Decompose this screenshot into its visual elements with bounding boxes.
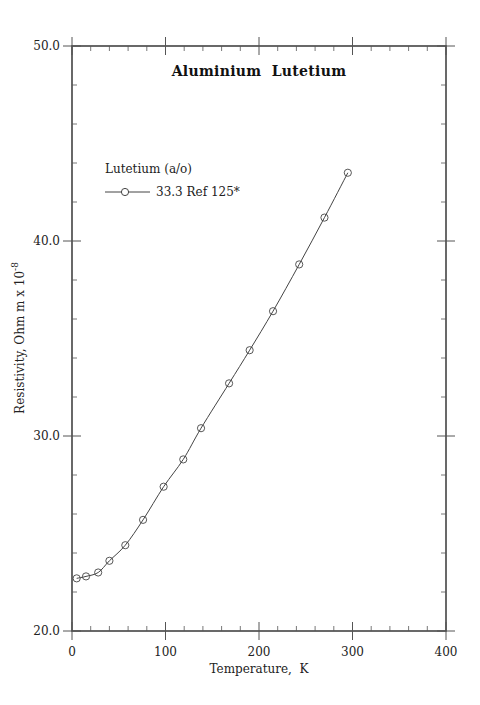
x-tick-label: 200: [248, 645, 271, 659]
y-tick-label: 20.0: [33, 624, 60, 638]
x-tick-label: 400: [435, 645, 458, 659]
chart-title: Aluminium Lutetium: [171, 63, 347, 79]
x-axis-label: Temperature, K: [209, 662, 309, 676]
legend-entry-label: 33.3 Ref 125*: [156, 185, 240, 199]
y-tick-labels: 20.030.040.050.0: [33, 39, 60, 638]
x-tick-labels: 0100200300400: [68, 645, 457, 659]
legend: Lutetium (a/o) 33.3 Ref 125*: [105, 162, 240, 199]
y-axis-label-text: Resistivity, Ohm m x 10: [13, 271, 27, 414]
y-axis-label: Resistivity, Ohm m x 10-8: [10, 262, 27, 414]
y-tick-label: 40.0: [33, 234, 60, 248]
x-tick-label: 100: [154, 645, 177, 659]
legend-title: Lutetium (a/o): [105, 162, 192, 176]
series-line: [77, 173, 348, 579]
y-tick-label: 30.0: [33, 429, 60, 443]
resistivity-chart: 0100200300400 20.030.040.050.0 Aluminium…: [0, 0, 480, 705]
y-axis-label-group: Resistivity, Ohm m x 10-8: [10, 262, 27, 414]
y-axis-label-exponent: -8: [10, 262, 20, 271]
legend-marker-circle-icon: [121, 188, 128, 195]
y-tick-label: 50.0: [33, 39, 60, 53]
x-tick-label: 300: [341, 645, 364, 659]
data-series: [73, 169, 351, 582]
x-tick-label: 0: [68, 645, 76, 659]
